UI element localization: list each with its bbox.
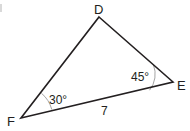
vertex-label-d: D: [94, 2, 103, 17]
angle-label-e: 45°: [131, 70, 149, 84]
vertex-label-f: F: [7, 114, 15, 129]
triangle-def: [21, 17, 173, 118]
vertex-label-e: E: [177, 78, 186, 93]
edge-artifact: [0, 4, 2, 12]
triangle-diagram: D E F 45° 30° 7: [0, 0, 190, 131]
side-label-fe: 7: [101, 104, 108, 118]
angle-label-f: 30°: [49, 93, 67, 107]
